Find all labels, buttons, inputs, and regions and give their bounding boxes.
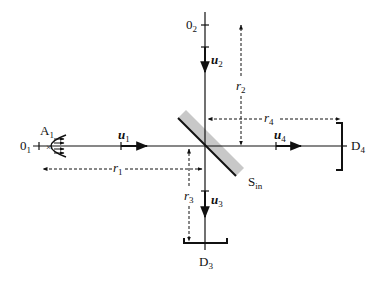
svg-text:×: × — [46, 142, 51, 152]
label-u1: u1 — [118, 127, 130, 144]
label-u4: u4 — [274, 127, 286, 144]
label-u2: u2 — [211, 52, 223, 69]
label-r3: r3 — [184, 188, 194, 205]
beam-splitter — [178, 110, 244, 176]
label-splitter: Sin — [248, 174, 263, 191]
horizontal-beam — [33, 142, 342, 150]
interferometer-diagram: × 01 A1 02 u1 u2 u3 u4 r1 r2 r3 r4 Sin D… — [0, 0, 384, 283]
label-r4: r4 — [264, 110, 274, 127]
label-source: A1 — [40, 123, 54, 140]
label-origin2: 02 — [186, 17, 197, 34]
label-detector3: D3 — [199, 254, 213, 271]
label-u3: u3 — [211, 192, 223, 209]
label-detector4: D4 — [351, 138, 365, 155]
label-origin1: 01 — [20, 138, 31, 155]
label-r1: r1 — [113, 160, 123, 177]
label-r2: r2 — [236, 78, 246, 95]
